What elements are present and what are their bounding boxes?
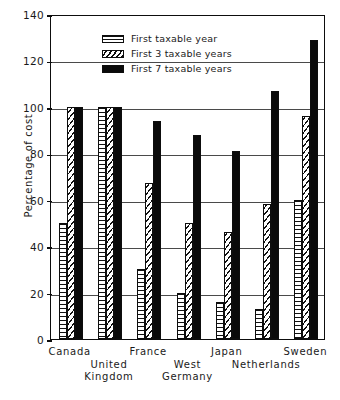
bar [255,309,263,339]
bar [271,91,279,339]
bar [177,293,185,339]
x-axis-label: Netherlands [224,359,308,371]
legend-item: First 7 taxable years [102,61,252,76]
legend-item: First taxable year [102,31,252,46]
bar-chart: Percentage of cost 140120100806040200 Fi… [0,0,340,400]
bar [232,151,240,339]
x-axis-label: Canada [28,346,112,358]
bar [185,223,193,339]
x-axis-label: France [106,346,190,358]
legend-swatch-icon [102,65,124,73]
y-axis-tick-40: 40 [16,242,44,253]
x-axis-label: Sweden [263,346,340,358]
legend-swatch-icon [102,50,124,58]
x-axis-label: West Germany [146,359,230,382]
bar [137,269,145,339]
bar [216,302,224,339]
x-axis-label: United Kingdom [67,359,151,382]
bar [67,107,75,339]
bar [263,204,271,339]
bar [193,135,201,339]
y-axis-tick-0: 0 [16,335,44,346]
y-axis-tick-60: 60 [16,196,44,207]
bar [294,200,302,339]
legend-item: First 3 taxable years [102,46,252,61]
bar-group [294,16,318,339]
y-axis-tick-80: 80 [16,149,44,160]
tick-mark-80 [47,155,52,156]
tick-mark-60 [47,201,52,202]
y-axis-tick-140: 140 [16,10,44,21]
y-axis-tick-120: 120 [16,56,44,67]
bar-group [255,16,279,339]
bar [145,183,153,339]
y-axis-tick-100: 100 [16,103,44,114]
x-axis-label: Japan [185,346,269,358]
bar [98,107,106,339]
bar [153,121,161,339]
bar [310,40,318,339]
tick-mark-40 [47,247,52,248]
legend-label: First taxable year [131,33,217,44]
legend-swatch-icon [102,35,124,43]
bar [224,232,232,339]
bar [106,107,114,339]
y-axis-tick-20: 20 [16,289,44,300]
tick-mark-100 [47,108,52,109]
chart-legend: First taxable yearFirst 3 taxable yearsF… [102,31,252,76]
tick-mark-120 [47,62,52,63]
bar [75,107,83,339]
bar [59,223,67,339]
tick-mark-140 [47,15,52,16]
bar-group [59,16,83,339]
tick-mark-0 [47,340,52,341]
bar [114,107,122,339]
legend-label: First 7 taxable years [131,63,232,74]
legend-label: First 3 taxable years [131,48,232,59]
tick-mark-20 [47,294,52,295]
bar [302,116,310,339]
